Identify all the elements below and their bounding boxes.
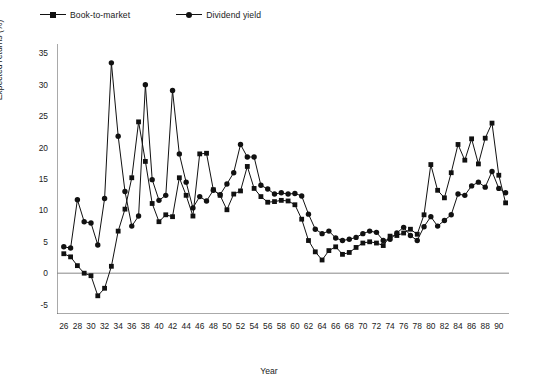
x-tick-label: 56 [261,321,275,331]
y-tick-label: -5 [0,300,48,310]
y-tick-label: 30 [0,80,48,90]
x-tick-label: 42 [166,321,180,331]
x-tick-label: 40 [152,321,166,331]
chart-canvas [57,44,509,314]
x-tick-label: 44 [179,321,193,331]
x-tick-label: 78 [410,321,424,331]
y-tick-label: 25 [0,111,48,121]
plot-area [57,44,509,314]
x-tick-label: 80 [424,321,438,331]
legend-label-dividend-yield: Dividend yield [206,10,261,20]
x-tick-label: 48 [206,321,220,331]
legend-entry-book-to-market: Book-to-market [40,10,130,20]
x-tick-label: 88 [478,321,492,331]
y-tick-label: 5 [0,237,48,247]
legend-label-book-to-market: Book-to-market [70,10,130,20]
y-tick-label: 35 [0,48,48,58]
x-tick-label: 82 [437,321,451,331]
legend-entry-dividend-yield: Dividend yield [176,10,261,20]
y-tick-label: 0 [0,268,48,278]
x-tick-label: 50 [220,321,234,331]
x-tick-label: 72 [369,321,383,331]
x-tick-label: 68 [342,321,356,331]
y-tick-label: 10 [0,205,48,215]
x-tick-label: 74 [383,321,397,331]
chart-legend: Book-to-market Dividend yield [40,6,261,24]
y-axis-label: Expected returns (%) [0,0,4,120]
x-tick-label: 66 [329,321,343,331]
x-axis-label: Year [0,366,538,376]
x-tick-label: 62 [301,321,315,331]
x-tick-label: 64 [315,321,329,331]
x-tick-label: 84 [451,321,465,331]
x-tick-label: 70 [356,321,370,331]
x-tick-label: 54 [247,321,261,331]
legend-marker-circle-icon [176,10,202,20]
y-tick-label: 15 [0,174,48,184]
x-tick-label: 30 [84,321,98,331]
x-tick-label: 36 [125,321,139,331]
x-tick-label: 32 [98,321,112,331]
figure-caption [3,377,535,386]
figure-expected-returns: Book-to-market Dividend yield Expected r… [0,0,538,386]
x-tick-label: 46 [193,321,207,331]
x-tick-label: 58 [274,321,288,331]
x-tick-label: 86 [465,321,479,331]
x-tick-label: 34 [111,321,125,331]
x-tick-label: 28 [70,321,84,331]
x-tick-label: 52 [234,321,248,331]
x-tick-label: 26 [57,321,71,331]
x-tick-label: 60 [288,321,302,331]
x-tick-label: 90 [492,321,506,331]
legend-marker-square-icon [40,10,66,20]
x-tick-label: 38 [138,321,152,331]
x-tick-label: 76 [397,321,411,331]
y-tick-label: 20 [0,143,48,153]
